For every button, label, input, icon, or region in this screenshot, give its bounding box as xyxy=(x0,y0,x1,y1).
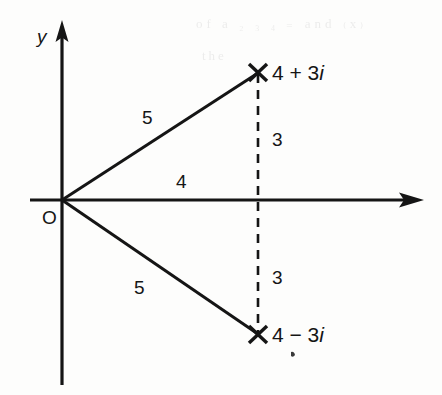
point-label-lower-text: 4 − 3i xyxy=(272,323,324,346)
origin-label: O xyxy=(42,208,57,227)
length-label-vertical-upper: 3 xyxy=(272,130,283,149)
imaginary-unit-glyph: i xyxy=(319,61,324,84)
point-label-upper-text: 4 + 3i xyxy=(272,61,324,84)
argand-diagram-svg xyxy=(0,0,442,395)
length-label-lower-hypotenuse: 5 xyxy=(134,278,145,297)
point-label-lower: 4 − 3i xyxy=(272,324,324,345)
point-label-upper: 4 + 3i xyxy=(272,62,324,83)
y-axis-label: y xyxy=(37,27,47,46)
length-label-horizontal: 4 xyxy=(176,172,187,191)
length-label-vertical-lower: 3 xyxy=(272,268,283,287)
ray-to-upper-point xyxy=(62,73,258,200)
modulus-rays-group xyxy=(62,73,258,334)
ray-to-lower-point xyxy=(62,200,258,334)
marker-lower-point xyxy=(249,326,267,343)
imaginary-unit-glyph: i xyxy=(319,323,324,346)
stray-ink-mark xyxy=(291,352,295,357)
axes-group xyxy=(30,20,424,385)
figure-canvas: of a ₂ ₃ ₄ ₌ and ₍x₎ the xyxy=(0,0,442,395)
length-label-upper-hypotenuse: 5 xyxy=(142,108,153,127)
